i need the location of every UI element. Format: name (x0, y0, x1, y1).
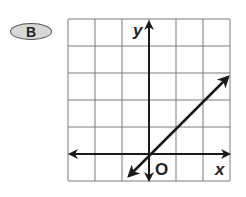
y-axis-label: y (132, 21, 144, 40)
x-axis-label: x (214, 160, 226, 179)
origin-label: O (155, 160, 168, 179)
coordinate-graph: y x O (0, 0, 246, 197)
